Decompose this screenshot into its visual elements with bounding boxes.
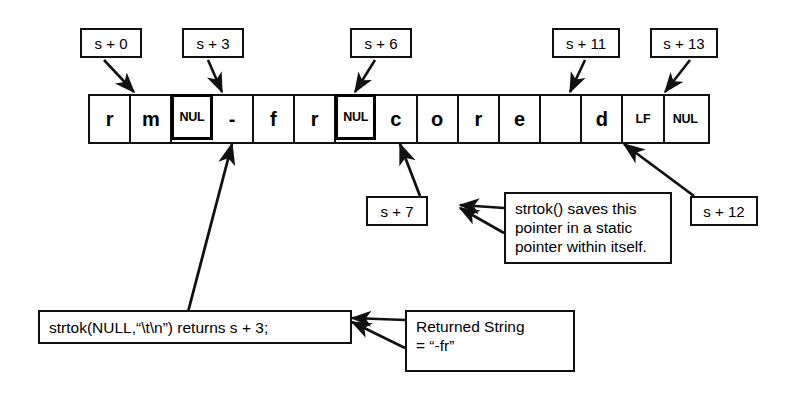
memory-cell-8[interactable]: o [418, 96, 459, 142]
arrow-note-static-lower [460, 208, 504, 233]
note-returned-string-line1: Returned String [416, 317, 565, 336]
offset-label-s0-text: s + 0 [95, 35, 128, 52]
memory-cell-1[interactable]: m [131, 96, 172, 142]
memory-cell-8-text: o [431, 108, 443, 131]
memory-cell-2-text: NUL [179, 110, 204, 124]
memory-cell-2[interactable]: NUL [171, 94, 212, 140]
memory-cell-14-text: NUL [673, 112, 698, 126]
memory-cell-10-text: e [514, 108, 525, 131]
offset-label-s11-text: s + 11 [566, 35, 606, 52]
arrow-s3 [208, 60, 222, 92]
memory-cell-0[interactable]: r [90, 96, 131, 142]
memory-cell-13[interactable]: LF [623, 96, 664, 142]
note-strtok-call-text: strtok(NULL,“\t\n”) returns s + 3; [49, 318, 268, 337]
memory-cell-7-text: c [390, 108, 401, 131]
arrow-s7 [400, 144, 420, 196]
arrow-s13 [665, 60, 690, 92]
note-returned-string-line2: = “-fr” [416, 336, 565, 355]
memory-cell-12-text: d [596, 108, 608, 131]
arrow-note-static-upper [460, 205, 504, 208]
note-static-pointer-line2: pointer in a static [515, 218, 662, 237]
memory-cell-4-text: f [270, 108, 277, 131]
note-static-pointer-line3: pointer within itself. [515, 237, 662, 256]
arrow-returned-lower [352, 322, 405, 348]
arrow-s0 [104, 60, 134, 92]
memory-cell-11[interactable] [541, 96, 582, 142]
offset-label-s7[interactable]: s + 7 [366, 196, 428, 226]
memory-cell-9[interactable]: r [459, 96, 500, 142]
offset-label-s12-text: s + 12 [703, 203, 744, 220]
memory-cell-9-text: r [474, 108, 482, 131]
memory-cell-14[interactable]: NUL [665, 96, 706, 142]
memory-cell-10[interactable]: e [500, 96, 541, 142]
offset-label-s6[interactable]: s + 6 [350, 28, 412, 58]
offset-label-s3[interactable]: s + 3 [182, 28, 244, 58]
arrow-strtok-call-to-cell3 [188, 144, 232, 312]
offset-label-s0[interactable]: s + 0 [80, 28, 142, 58]
memory-strip: rmNUL-frNULcoredLFNUL [88, 94, 710, 144]
offset-label-s6-text: s + 6 [365, 35, 398, 52]
arrow-s6 [355, 60, 375, 92]
memory-cell-1-text: m [142, 108, 160, 131]
note-strtok-call[interactable]: strtok(NULL,“\t\n”) returns s + 3; [38, 310, 352, 344]
memory-cell-12[interactable]: d [582, 96, 623, 142]
note-static-pointer[interactable]: strtok() saves this pointer in a static … [504, 192, 672, 264]
memory-cell-4[interactable]: f [254, 96, 295, 142]
memory-cell-6-text: NUL [343, 110, 368, 124]
memory-cell-7[interactable]: c [376, 96, 417, 142]
offset-label-s13-text: s + 13 [663, 35, 704, 52]
diagram-canvas: rmNUL-frNULcoredLFNUL s + 0 s + 3 s + 6 … [0, 0, 787, 405]
memory-cell-5-text: r [311, 108, 319, 131]
memory-cell-13-text: LF [636, 112, 651, 126]
offset-label-s12[interactable]: s + 12 [690, 196, 758, 226]
note-static-pointer-line1: strtok() saves this [515, 199, 662, 218]
arrow-s12 [624, 144, 694, 196]
arrow-returned-upper [352, 318, 405, 320]
memory-cell-3[interactable]: - [213, 96, 254, 142]
memory-cell-6[interactable]: NUL [335, 94, 376, 140]
memory-cell-5[interactable]: r [295, 96, 336, 142]
offset-label-s3-text: s + 3 [197, 35, 230, 52]
offset-label-s13[interactable]: s + 13 [650, 28, 718, 58]
memory-cell-0-text: r [106, 108, 114, 131]
arrow-s11 [570, 60, 585, 92]
note-returned-string[interactable]: Returned String = “-fr” [405, 310, 575, 372]
offset-label-s11[interactable]: s + 11 [552, 28, 620, 58]
offset-label-s7-text: s + 7 [381, 203, 414, 220]
memory-cell-3-text: - [229, 108, 236, 131]
